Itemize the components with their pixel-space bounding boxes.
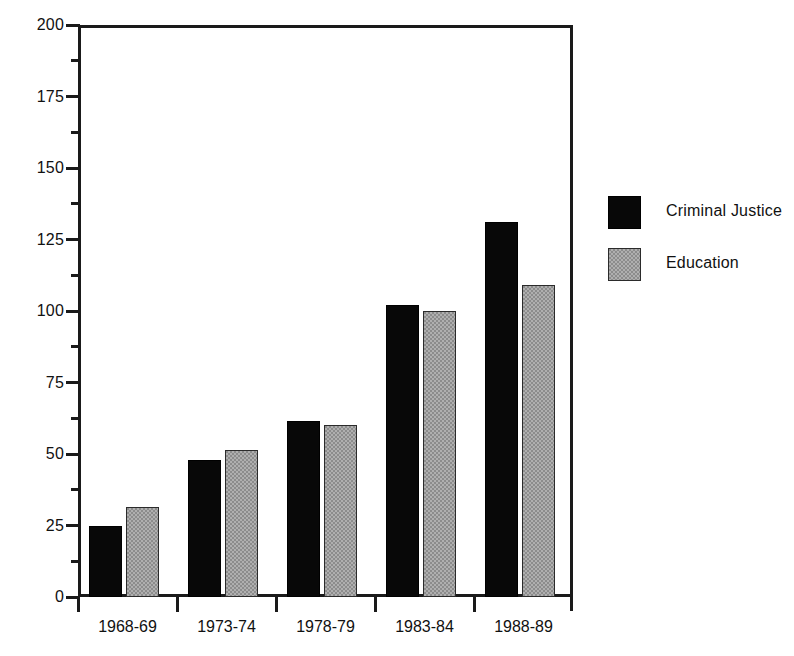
- legend-item-education: Education: [608, 242, 794, 294]
- bar-criminal-justice-1988-89: [485, 222, 518, 597]
- y-axis-minor-tick: [71, 345, 80, 348]
- legend-label-criminal-justice: Criminal Justice: [666, 202, 782, 220]
- legend-item-criminal-justice: Criminal Justice: [608, 190, 794, 242]
- y-axis-tick-label: 175: [2, 89, 64, 105]
- y-axis-minor-tick: [71, 488, 80, 491]
- x-axis-tick: [473, 597, 476, 612]
- x-axis-tick: [374, 597, 377, 612]
- frame-rail-extension: [570, 597, 573, 611]
- legend-label-education: Education: [666, 254, 739, 272]
- legend-swatch-criminal-justice: [608, 196, 641, 229]
- bar-education-1978-79: [324, 425, 357, 597]
- y-axis-minor-tick: [71, 274, 80, 277]
- y-axis-major-tick: [66, 524, 80, 527]
- y-axis-major-tick: [66, 310, 80, 313]
- bar-criminal-justice-1968-69: [89, 526, 122, 598]
- y-axis-tick-label: 0: [2, 589, 64, 605]
- y-axis-tick-label: 50: [2, 446, 64, 462]
- x-axis-tick-label: 1973-74: [177, 618, 276, 636]
- y-axis-major-tick: [66, 238, 80, 241]
- y-axis-minor-tick: [71, 417, 80, 420]
- y-axis-tick-label: 200: [2, 17, 64, 33]
- bar-criminal-justice-1978-79: [287, 421, 320, 597]
- x-axis-tick: [77, 597, 80, 612]
- y-axis: 0255075100125150175200: [0, 0, 64, 656]
- y-axis-tick-label: 100: [2, 303, 64, 319]
- bar-education-1973-74: [225, 450, 258, 597]
- bar-education-1968-69: [126, 507, 159, 597]
- bar-criminal-justice-1973-74: [188, 460, 221, 597]
- y-axis-minor-tick: [71, 560, 80, 563]
- x-axis-tick-label: 1983-84: [375, 618, 474, 636]
- y-axis-tick-label: 150: [2, 160, 64, 176]
- x-axis-tick: [275, 597, 278, 612]
- bar-education-1983-84: [423, 311, 456, 597]
- y-axis-tick-label: 75: [2, 375, 64, 391]
- legend: Criminal Justice Education: [608, 190, 794, 294]
- bar-criminal-justice-1983-84: [386, 305, 419, 597]
- bar-chart: 0255075100125150175200 1968-691973-74197…: [0, 0, 794, 656]
- x-axis-tick: [176, 597, 179, 612]
- y-axis-major-tick: [66, 381, 80, 384]
- x-axis-tick-label: 1978-79: [276, 618, 375, 636]
- y-axis-minor-tick: [71, 202, 80, 205]
- y-axis-major-tick: [66, 167, 80, 170]
- y-axis-major-tick: [66, 24, 80, 27]
- legend-swatch-education: [608, 248, 641, 281]
- y-axis-major-tick: [66, 453, 80, 456]
- bar-education-1988-89: [522, 285, 555, 597]
- x-axis-tick-label: 1968-69: [78, 618, 177, 636]
- y-axis-minor-tick: [71, 59, 80, 62]
- y-axis-tick-label: 125: [2, 232, 64, 248]
- y-axis-major-tick: [66, 95, 80, 98]
- x-axis-tick-label: 1988-89: [474, 618, 573, 636]
- y-axis-tick-label: 25: [2, 518, 64, 534]
- y-axis-minor-tick: [71, 131, 80, 134]
